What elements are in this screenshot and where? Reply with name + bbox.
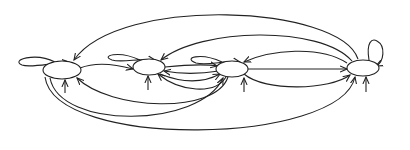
edge-n2-to-n3-lower [160, 74, 220, 81]
edge-n3-to-n4-bottom [244, 74, 350, 87]
edge-n4-to-n1 [74, 15, 358, 60]
edge-n3-to-n2 [164, 71, 219, 73]
state-node-3 [216, 61, 248, 77]
edge-n1-to-n2 [80, 64, 133, 69]
state-node-4 [347, 60, 379, 76]
state-node-1 [43, 61, 81, 79]
state-diagram [0, 0, 410, 150]
edge-n4-to-n3 [244, 51, 347, 63]
edge-n3-to-n1-bottom [77, 77, 228, 104]
state-node-2 [133, 59, 165, 75]
edge-n2-to-n3 [165, 65, 217, 67]
edge-n1-to-n4-bottom [45, 77, 355, 130]
